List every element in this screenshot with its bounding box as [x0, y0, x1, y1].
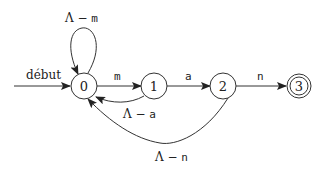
start-label: début	[26, 68, 61, 82]
transition-0-1: m	[97, 70, 141, 86]
transition-label-2-0: Λ − n	[154, 150, 188, 164]
state-0: 0	[71, 73, 97, 99]
transition-0-0: Λ − m	[64, 11, 98, 74]
transition-label-0-0: Λ − m	[64, 11, 98, 25]
transition-label-0-1: m	[114, 70, 121, 83]
transition-label-1-2: a	[185, 70, 192, 83]
automaton-diagram: début Λ − m m a n Λ − a Λ − n 0	[0, 0, 325, 169]
start-arrow: début	[14, 68, 70, 86]
state-label-0: 0	[80, 79, 88, 94]
state-label-2: 2	[219, 79, 227, 94]
state-1: 1	[141, 73, 167, 99]
transition-1-2: a	[167, 70, 210, 86]
state-label-1: 1	[150, 79, 158, 94]
transition-1-0: Λ − a	[96, 96, 156, 121]
transition-label-2-3: n	[257, 70, 264, 83]
state-label-3: 3	[295, 79, 303, 94]
transition-2-3: n	[236, 70, 286, 86]
transition-label-1-0: Λ − a	[122, 107, 156, 121]
state-3-accepting: 3	[287, 74, 311, 98]
state-2: 2	[210, 73, 236, 99]
transition-2-0: Λ − n	[88, 98, 228, 164]
